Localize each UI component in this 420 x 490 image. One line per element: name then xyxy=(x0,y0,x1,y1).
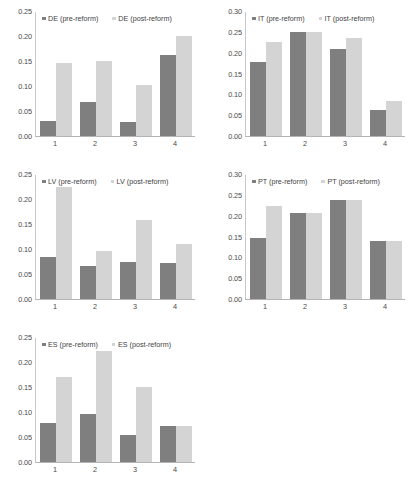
legend-label: ES (pre-reform) xyxy=(48,340,98,349)
x-tick-label: 1 xyxy=(53,466,57,474)
y-tick-label: 0.00 xyxy=(228,296,242,303)
x-tick-label: 3 xyxy=(133,303,137,311)
plot-wrapper: 0.000.050.100.150.200.251234ES (pre-refo… xyxy=(0,326,210,490)
x-tick-label: 2 xyxy=(93,303,97,311)
legend-swatch-icon xyxy=(112,17,116,21)
y-tick-label: 0.10 xyxy=(228,92,242,99)
bar-pre-reform xyxy=(330,49,346,136)
y-axis: 0.000.050.100.150.200.25 xyxy=(4,12,32,137)
x-tick-label: 3 xyxy=(343,140,347,148)
x-tick-label: 1 xyxy=(53,303,57,311)
bar-group xyxy=(156,175,196,299)
bar-group xyxy=(366,175,406,299)
legend-label: PT (post-reform) xyxy=(327,177,380,186)
y-tick-label: 0.15 xyxy=(228,234,242,241)
y-tick-label: 0.15 xyxy=(228,71,242,78)
bar-pre-reform xyxy=(80,102,96,136)
y-tick-label: 0.25 xyxy=(18,171,32,178)
y-tick-label: 0.25 xyxy=(18,8,32,15)
bar-post-reform xyxy=(386,241,402,299)
bar-post-reform xyxy=(386,101,402,136)
bar-pre-reform xyxy=(120,435,136,463)
bars-container xyxy=(36,12,195,136)
bar-post-reform xyxy=(136,387,152,462)
x-tick-label: 4 xyxy=(173,466,177,474)
bar-pre-reform xyxy=(160,55,176,136)
bar-post-reform xyxy=(306,213,322,299)
x-tick-label: 2 xyxy=(93,466,97,474)
legend-label: IT (pre-reform) xyxy=(258,14,305,23)
legend-swatch-icon xyxy=(252,17,256,21)
y-tick-label: 0.05 xyxy=(18,271,32,278)
y-tick-label: 0.20 xyxy=(18,33,32,40)
plot-area xyxy=(35,12,195,137)
y-tick-label: 0.25 xyxy=(18,334,32,341)
chart-panel-es: 0.000.050.100.150.200.251234ES (pre-refo… xyxy=(0,326,210,490)
x-axis: 1234 xyxy=(245,140,405,154)
legend-item-pre-reform: LV (pre-reform) xyxy=(42,177,97,186)
y-tick-label: 0.05 xyxy=(228,276,242,283)
bar-group xyxy=(326,175,366,299)
y-tick-label: 0.10 xyxy=(18,409,32,416)
x-tick-label: 2 xyxy=(303,303,307,311)
bar-post-reform xyxy=(176,244,192,300)
bar-pre-reform xyxy=(370,110,386,136)
legend-item-pre-reform: ES (pre-reform) xyxy=(42,340,98,349)
bar-pre-reform xyxy=(80,266,96,300)
chart-panel-it: 0.000.050.100.150.200.250.301234IT (pre-… xyxy=(210,0,420,165)
y-tick-label: 0.15 xyxy=(18,384,32,391)
bar-group xyxy=(36,338,76,462)
bar-post-reform xyxy=(266,42,282,136)
x-tick-label: 2 xyxy=(93,140,97,148)
y-tick-label: 0.25 xyxy=(228,29,242,36)
y-tick-label: 0.00 xyxy=(18,296,32,303)
plot-area xyxy=(245,12,405,137)
y-tick-label: 0.00 xyxy=(18,133,32,140)
legend-swatch-icon xyxy=(42,180,46,184)
bar-pre-reform xyxy=(330,200,346,299)
x-axis: 1234 xyxy=(245,303,405,317)
bar-post-reform xyxy=(96,61,112,136)
x-axis: 1234 xyxy=(35,303,195,317)
x-tick-label: 3 xyxy=(133,466,137,474)
bar-post-reform xyxy=(346,38,362,136)
y-tick-label: 0.10 xyxy=(18,83,32,90)
bars-container xyxy=(36,338,195,462)
bar-post-reform xyxy=(56,187,72,299)
legend-item-post-reform: LV (post-reform) xyxy=(111,177,169,186)
legend-item-pre-reform: DE (pre-reform) xyxy=(42,14,98,23)
y-tick-label: 0.00 xyxy=(18,459,32,466)
bar-post-reform xyxy=(176,426,192,462)
legend-swatch-icon xyxy=(252,180,256,184)
bars-container xyxy=(246,12,405,136)
y-tick-label: 0.20 xyxy=(18,196,32,203)
y-tick-label: 0.05 xyxy=(18,108,32,115)
bar-pre-reform xyxy=(120,122,136,137)
plot-wrapper: 0.000.050.100.150.200.250.301234IT (pre-… xyxy=(210,0,420,165)
x-tick-label: 1 xyxy=(263,303,267,311)
bars-container xyxy=(246,175,405,299)
chart-legend: LV (pre-reform)LV (post-reform) xyxy=(42,177,204,186)
chart-panel-lv: 0.000.050.100.150.200.251234LV (pre-refo… xyxy=(0,163,210,328)
legend-label: LV (post-reform) xyxy=(117,177,169,186)
chart-panel-pt: 0.000.050.100.150.200.250.301234PT (pre-… xyxy=(210,163,420,328)
bar-post-reform xyxy=(56,377,72,463)
x-tick-label: 1 xyxy=(263,140,267,148)
legend-swatch-icon xyxy=(111,180,115,184)
bar-group xyxy=(76,175,116,299)
legend-item-pre-reform: PT (pre-reform) xyxy=(252,177,307,186)
legend-label: PT (pre-reform) xyxy=(258,177,307,186)
y-tick-label: 0.30 xyxy=(228,171,242,178)
bar-post-reform xyxy=(266,206,282,299)
x-tick-label: 4 xyxy=(383,303,387,311)
y-tick-label: 0.15 xyxy=(18,221,32,228)
legend-label: LV (pre-reform) xyxy=(48,177,97,186)
bar-group xyxy=(156,12,196,136)
bar-pre-reform xyxy=(80,414,96,463)
bar-group xyxy=(76,338,116,462)
y-tick-label: 0.05 xyxy=(228,113,242,120)
y-tick-label: 0.30 xyxy=(228,8,242,15)
bar-post-reform xyxy=(136,220,152,300)
chart-legend: IT (pre-reform)IT (post-reform) xyxy=(252,14,414,23)
bar-post-reform xyxy=(136,85,152,137)
